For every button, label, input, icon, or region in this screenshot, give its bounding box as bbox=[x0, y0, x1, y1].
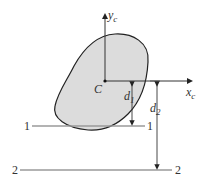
distance-d2-label: d2 bbox=[150, 101, 161, 117]
x-axis-label: xc bbox=[185, 85, 195, 101]
line-2-right-label: 2 bbox=[175, 163, 181, 177]
y-axis-label: yc bbox=[107, 8, 117, 24]
line-2-left-label: 2 bbox=[12, 163, 18, 177]
centroid-point bbox=[103, 79, 106, 82]
line-1-left-label: 1 bbox=[24, 119, 30, 133]
centroid-label: C bbox=[94, 82, 103, 96]
line-1-right-label: 1 bbox=[147, 119, 153, 133]
parallel-axis-diagram: yc xc C d1 d2 1 1 2 2 bbox=[0, 0, 202, 186]
